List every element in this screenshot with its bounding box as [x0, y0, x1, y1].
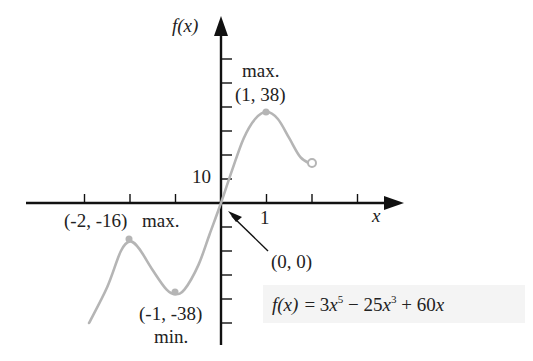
min-label: min.	[154, 326, 188, 347]
min-point-marker	[172, 289, 179, 296]
y-tick-label-10: 10	[192, 166, 211, 187]
y-ticks	[221, 59, 232, 323]
min-point-label: (-1, -38)	[139, 303, 202, 325]
origin-label: (0, 0)	[271, 251, 312, 273]
max-label: max.	[242, 60, 279, 81]
max-point-marker	[263, 109, 270, 116]
x-axis	[26, 194, 404, 210]
y-axis-label: f(x)	[172, 15, 198, 37]
local-max-point-label: (-2, -16)	[64, 210, 127, 232]
origin-pointer-arrow-icon	[228, 211, 242, 222]
local-max-point-marker	[126, 236, 133, 243]
x-axis-arrow-icon	[384, 196, 404, 210]
formula-fx: f(x)	[272, 294, 298, 316]
x-axis-label: x	[371, 205, 381, 226]
local-max-label: max.	[142, 210, 179, 231]
formula-eq: = 3	[304, 294, 329, 315]
y-axis-arrow-icon	[214, 16, 228, 36]
max-point-label: (1, 38)	[235, 84, 286, 106]
formula: f(x)= 3x5 − 25x3 + 60x	[272, 293, 445, 316]
function-graph: f(x) x 10 1 max. (1, 38) (-2, -16) max. …	[0, 0, 533, 361]
x-tick-label-1: 1	[260, 207, 270, 228]
open-endpoint-marker	[308, 159, 316, 167]
